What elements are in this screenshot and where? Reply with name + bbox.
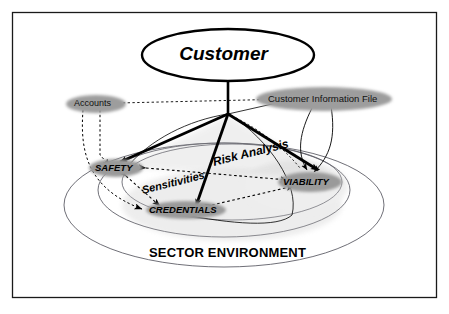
node-shape-cif (256, 87, 392, 111)
diagram-figure (0, 0, 449, 314)
diagram-canvas: Customer Accounts Customer Information F… (0, 0, 449, 314)
node-shape-customer (142, 29, 314, 81)
node-shape-viability (278, 172, 342, 192)
node-shape-safety (89, 159, 143, 177)
node-shape-credentials (146, 201, 226, 219)
node-shape-accounts (66, 95, 126, 113)
